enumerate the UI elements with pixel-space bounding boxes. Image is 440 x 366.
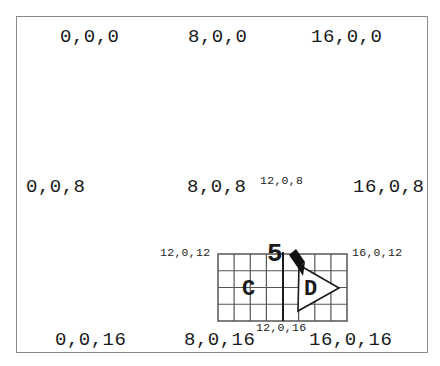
grid-diagram	[0, 0, 440, 366]
region-label-d: D	[304, 279, 317, 301]
step-number: 5	[267, 241, 283, 267]
region-label-c: C	[242, 279, 255, 301]
